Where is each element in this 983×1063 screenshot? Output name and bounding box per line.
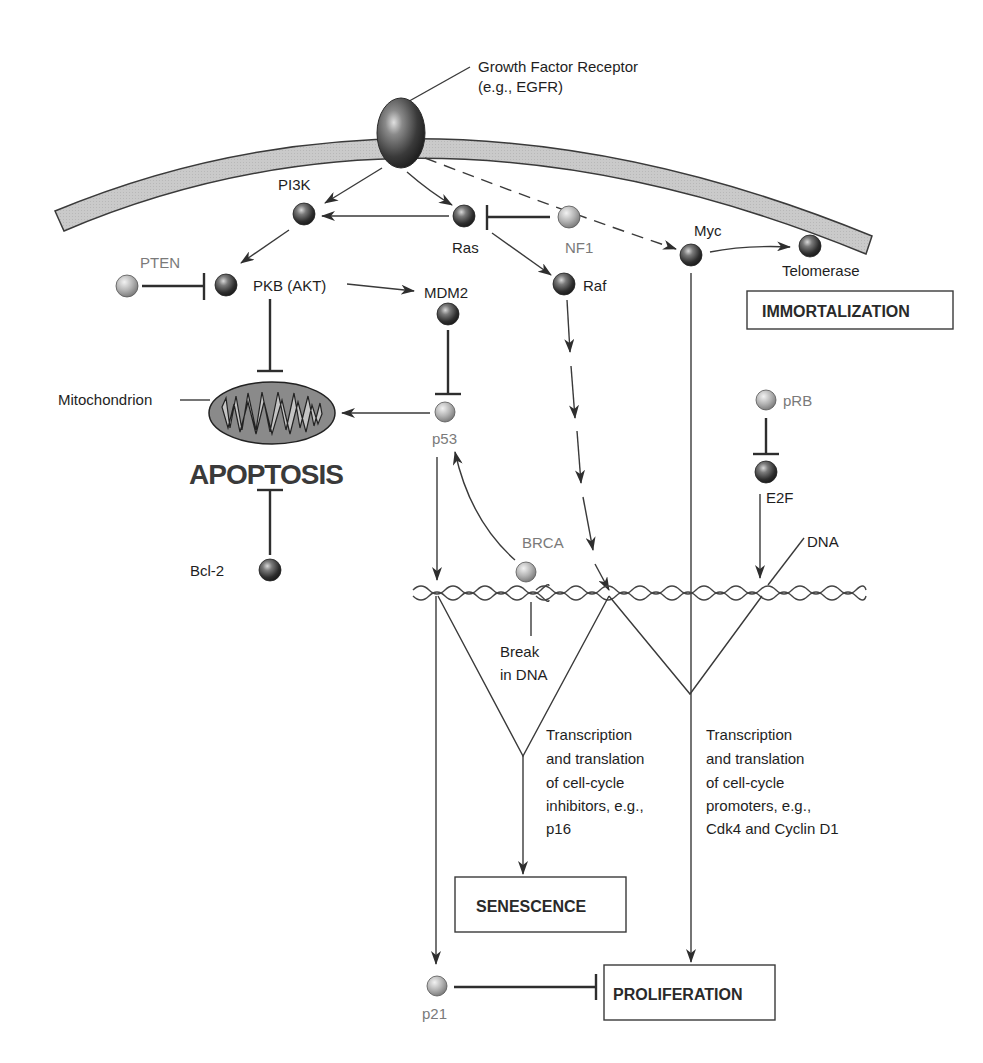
- p21-label: p21: [422, 1005, 447, 1022]
- dna-pointer-line: [768, 538, 804, 585]
- ras-label: Ras: [452, 239, 479, 256]
- bcl2-label: Bcl-2: [190, 562, 224, 579]
- break-label-line1: Break: [500, 643, 540, 660]
- break-label-line2: in DNA: [500, 666, 548, 683]
- senescence-outcome-box[interactable]: SENESCENCE: [455, 877, 626, 932]
- pi3k-node-icon[interactable]: [293, 203, 315, 225]
- proliferation-label: PROLIFERATION: [613, 986, 742, 1003]
- svg-text:promoters, e.g.,: promoters, e.g.,: [706, 797, 811, 814]
- ras-node-icon[interactable]: [453, 205, 475, 227]
- svg-text:and translation: and translation: [706, 750, 804, 767]
- svg-text:Cdk4 and Cyclin D1: Cdk4 and Cyclin D1: [706, 820, 839, 837]
- svg-text:Transcription: Transcription: [546, 726, 632, 743]
- svg-text:of cell-cycle: of cell-cycle: [546, 774, 624, 791]
- svg-text:Transcription: Transcription: [706, 726, 792, 743]
- raf-cascade-arrows: [567, 300, 609, 590]
- promoters-transcription-v: [609, 596, 762, 694]
- inhibitors-annotation: Transcription and translation of cell-cy…: [546, 726, 644, 837]
- receptor-to-ras-arrow: [407, 172, 452, 205]
- telomerase-node-icon[interactable]: [799, 235, 821, 257]
- receptor-label-line1: Growth Factor Receptor: [478, 58, 638, 75]
- pkb-akt-node-icon[interactable]: [215, 274, 237, 296]
- promoters-annotation: Transcription and translation of cell-cy…: [706, 726, 839, 837]
- brca-label: BRCA: [522, 534, 564, 551]
- nf1-node-icon[interactable]: [558, 206, 580, 228]
- e2f-node-icon[interactable]: [755, 461, 777, 483]
- mitochondrion-label: Mitochondrion: [58, 391, 152, 408]
- pi3k-to-pkb-arrow: [241, 230, 289, 263]
- receptor-label-line2: (e.g., EGFR): [478, 78, 563, 95]
- brca-node-icon[interactable]: [516, 562, 536, 582]
- bcl2-node-icon[interactable]: [259, 559, 281, 581]
- raf-node-icon[interactable]: [553, 273, 575, 295]
- receptor-pointer-line: [404, 67, 470, 104]
- p53-node-icon[interactable]: [435, 402, 455, 422]
- myc-node-icon[interactable]: [680, 244, 702, 266]
- svg-text:of cell-cycle: of cell-cycle: [706, 774, 784, 791]
- dna-strand-icon: [413, 585, 866, 602]
- growth-factor-receptor-icon[interactable]: [377, 98, 425, 168]
- telomerase-label: Telomerase: [782, 262, 860, 279]
- myc-label: Myc: [694, 222, 722, 239]
- nf1-label: NF1: [565, 239, 593, 256]
- pten-node-icon[interactable]: [116, 275, 138, 297]
- p21-node-icon[interactable]: [427, 976, 447, 996]
- p53-label: p53: [432, 430, 457, 447]
- pi3k-label: PI3K: [278, 176, 311, 193]
- ras-to-raf-arrow: [492, 233, 551, 275]
- e2f-label: E2F: [766, 489, 794, 506]
- mitochondrion-icon[interactable]: [209, 382, 335, 444]
- svg-text:p16: p16: [546, 820, 571, 837]
- brca-to-p53-arrow: [455, 452, 515, 560]
- svg-text:inhibitors, e.g.,: inhibitors, e.g.,: [546, 797, 644, 814]
- myc-to-telomerase-arrow: [710, 247, 790, 252]
- svg-text:and translation: and translation: [546, 750, 644, 767]
- prb-node-icon[interactable]: [756, 390, 776, 410]
- apoptosis-label: APOPTOSIS: [189, 459, 343, 490]
- cell-membrane: [55, 139, 872, 254]
- receptor-to-pi3k-arrow: [325, 168, 382, 203]
- immortalization-label: IMMORTALIZATION: [762, 303, 910, 320]
- dna-label: DNA: [807, 533, 839, 550]
- pten-label: PTEN: [140, 254, 180, 271]
- pkb-akt-label: PKB (AKT): [253, 277, 326, 294]
- cancer-signaling-diagram: Growth Factor Receptor (e.g., EGFR) PI3K…: [0, 0, 983, 1063]
- prb-label: pRB: [783, 392, 812, 409]
- raf-label: Raf: [583, 277, 607, 294]
- pkb-to-mdm2-arrow: [347, 284, 414, 291]
- immortalization-outcome-box[interactable]: IMMORTALIZATION: [747, 291, 953, 329]
- mdm2-node-icon[interactable]: [437, 303, 459, 325]
- senescence-label: SENESCENCE: [476, 898, 587, 915]
- proliferation-outcome-box[interactable]: PROLIFERATION: [604, 965, 775, 1020]
- mdm2-label: MDM2: [424, 284, 468, 301]
